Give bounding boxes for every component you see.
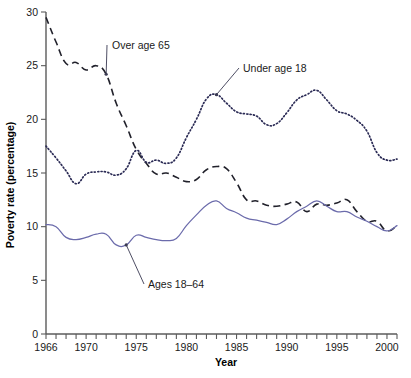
annotation-arrow-head — [125, 243, 128, 246]
x-tick-label: 1975 — [125, 341, 149, 353]
y-tick-label: 20 — [26, 113, 38, 125]
x-tick-label: 1970 — [74, 341, 98, 353]
y-tick-label: 5 — [32, 274, 38, 286]
annotation-arrow-head — [105, 73, 108, 76]
poverty-rate-line-chart: 051015202530 196619701975198019851990199… — [0, 0, 411, 378]
annotation-arrow-head — [215, 93, 218, 96]
chart-background — [0, 0, 411, 378]
annotation-label: Over age 65 — [112, 39, 170, 51]
y-axis-title: Poverty rate (percentage) — [4, 122, 16, 249]
x-tick-label: 1985 — [225, 341, 249, 353]
x-tick-label: 2000 — [375, 341, 399, 353]
y-tick-label: 25 — [26, 59, 38, 71]
x-axis-title: Year — [215, 356, 237, 368]
y-tick-label: 0 — [32, 328, 38, 340]
y-tick-label: 10 — [26, 220, 38, 232]
annotation-label: Under age 18 — [243, 62, 307, 74]
x-tick-label: 1995 — [325, 341, 349, 353]
x-tick-label: 1980 — [175, 341, 199, 353]
x-tick-label: 1990 — [275, 341, 299, 353]
y-tick-label: 30 — [26, 6, 38, 18]
x-tick-label: 1966 — [34, 341, 58, 353]
annotation-label: Ages 18–64 — [148, 278, 204, 290]
chart-canvas: 051015202530 196619701975198019851990199… — [0, 0, 411, 378]
y-tick-label: 15 — [26, 167, 38, 179]
